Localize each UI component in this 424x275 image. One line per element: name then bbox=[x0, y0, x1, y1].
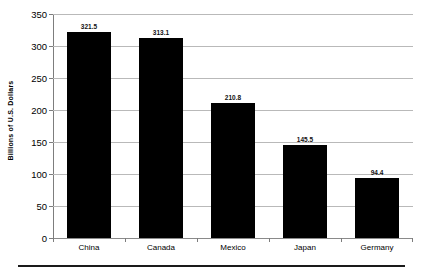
bar-value-label-mexico: 210.8 bbox=[225, 94, 241, 101]
y-tick-0 bbox=[49, 238, 53, 239]
bar-value-label-germany: 94.4 bbox=[371, 169, 384, 176]
y-tick-250 bbox=[49, 78, 53, 79]
x-category-label-germany: Germany bbox=[361, 243, 394, 252]
y-tick-200 bbox=[49, 110, 53, 111]
y-tick-50 bbox=[49, 206, 53, 207]
bar-chart-figure: Billions of U.S. Dollars 350300250200150… bbox=[0, 0, 424, 275]
y-tick-350 bbox=[49, 14, 53, 15]
x-category-label-japan: Japan bbox=[294, 243, 316, 252]
x-axis-category-labels: ChinaCanadaMexicoJapanGermany bbox=[0, 0, 424, 275]
x-category-label-mexico: Mexico bbox=[220, 243, 245, 252]
x-category-label-canada: Canada bbox=[147, 243, 175, 252]
bar-value-label-canada: 313.1 bbox=[153, 29, 169, 36]
y-tick-150 bbox=[49, 142, 53, 143]
bar-value-label-japan: 145.5 bbox=[297, 136, 313, 143]
x-category-label-china: China bbox=[79, 243, 100, 252]
y-tick-300 bbox=[49, 46, 53, 47]
y-tick-100 bbox=[49, 174, 53, 175]
bar-value-label-china: 321.5 bbox=[81, 23, 97, 30]
bottom-divider-rule bbox=[18, 265, 405, 267]
